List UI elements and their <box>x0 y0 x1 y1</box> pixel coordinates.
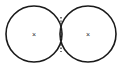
right-center-mark: × <box>86 31 90 38</box>
diagram-canvas: Two tangent circles with marked centers … <box>0 0 122 69</box>
two-circles-figure: Two tangent circles with marked centers … <box>0 0 122 69</box>
left-center-mark: × <box>32 31 36 38</box>
